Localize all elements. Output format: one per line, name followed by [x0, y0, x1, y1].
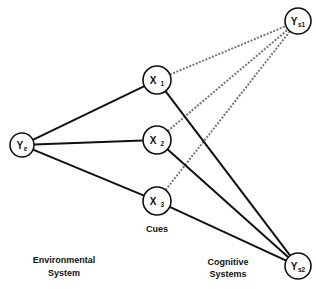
node-circle: [143, 187, 171, 215]
node-subscript: 3: [161, 201, 165, 208]
edge-x1-ys2: [165, 91, 290, 255]
node-subscript: e: [24, 145, 28, 152]
node-main-letter: X: [150, 196, 157, 207]
environmental-system-label-line1: Environmental: [33, 255, 96, 265]
cues-label: Cues: [146, 224, 168, 234]
node-subscript: 2: [161, 140, 165, 147]
edge-x3-ys1: [166, 31, 290, 190]
node-circle: [143, 126, 171, 154]
cognitive-systems-label-line1: Cognitive: [207, 257, 248, 267]
node-main-letter: Y: [291, 261, 298, 272]
edge-ye-x1: [33, 86, 145, 140]
node-ys1: Ys1: [285, 8, 311, 34]
node-subscript: 1: [161, 80, 165, 87]
node-main-letter: X: [150, 75, 157, 86]
node-ye: Ye: [10, 133, 34, 157]
node-x2: X2: [143, 126, 171, 154]
lens-model-diagram: YeX1X2X3Ys1Ys2 Cues Environmental System…: [0, 0, 316, 289]
cognitive-systems-label-line2: Systems: [209, 269, 246, 279]
edge-x1-ys1: [170, 26, 286, 75]
edge-x2-ys2: [167, 149, 288, 257]
edge-x2-ys1: [168, 29, 288, 131]
edge-x3-ys2: [170, 207, 286, 261]
edge-ye-x3: [33, 150, 144, 196]
node-x3: X3: [143, 187, 171, 215]
node-x1: X1: [143, 66, 171, 94]
edge-ye-x2: [34, 141, 143, 145]
node-subscript: s1: [298, 21, 306, 28]
node-circle: [143, 66, 171, 94]
node-main-letter: Y: [291, 16, 298, 27]
node-main-letter: X: [150, 135, 157, 146]
node-subscript: s2: [298, 266, 306, 273]
node-ys2: Ys2: [285, 253, 311, 279]
node-main-letter: Y: [17, 140, 24, 151]
environmental-system-label-line2: System: [48, 268, 80, 278]
